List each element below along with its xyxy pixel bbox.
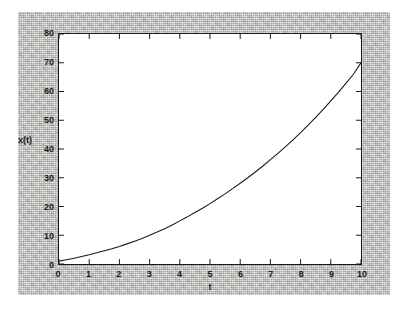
x-tick-label: 5	[207, 270, 212, 279]
x-tick-label: 2	[116, 270, 121, 279]
y-tick-label: 0	[28, 261, 54, 270]
x-axis-title: t	[209, 282, 212, 292]
y-tick-label: 40	[28, 145, 54, 154]
plot-canvas	[59, 34, 361, 264]
y-tick-label: 60	[28, 87, 54, 96]
y-axis-title: x(t)	[18, 135, 32, 145]
y-tick-label: 10	[28, 232, 54, 241]
x-tick-label: 9	[329, 270, 334, 279]
y-tick-label: 20	[28, 203, 54, 212]
figure-page: x(t) 01020304050607080 012345678910 t	[0, 0, 402, 309]
y-tick-label: 80	[28, 29, 54, 38]
x-tick-label: 6	[238, 270, 243, 279]
data-curve-xt	[59, 63, 361, 261]
y-tick-label: 70	[28, 58, 54, 67]
plot-area	[58, 33, 362, 265]
x-tick-label: 0	[55, 270, 60, 279]
x-tick-label: 3	[147, 270, 152, 279]
x-tick-label: 4	[177, 270, 182, 279]
x-tick-label: 1	[86, 270, 91, 279]
x-tick-label: 10	[357, 270, 367, 279]
y-tick-label: 30	[28, 174, 54, 183]
x-tick-label: 7	[268, 270, 273, 279]
y-tick-label: 50	[28, 116, 54, 125]
x-tick-label: 8	[299, 270, 304, 279]
tick-marks	[59, 34, 361, 264]
